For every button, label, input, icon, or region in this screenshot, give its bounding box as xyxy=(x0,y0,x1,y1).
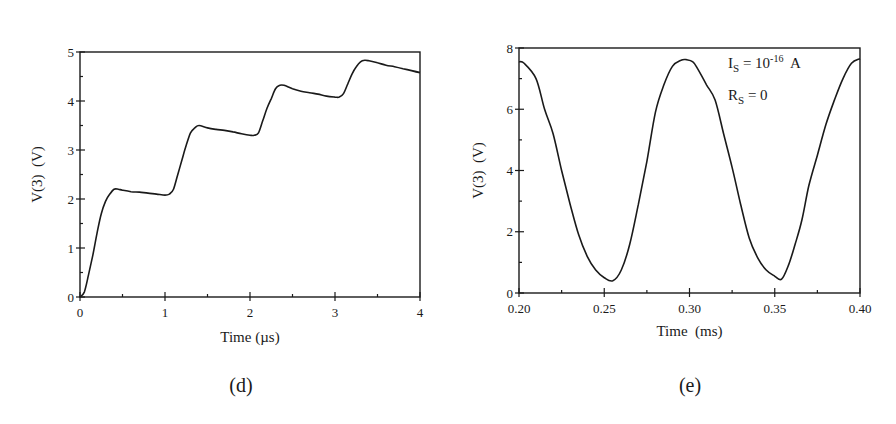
chart-e-y-ticks: 02468 xyxy=(507,41,525,301)
chart-e-series-line xyxy=(519,59,860,281)
chart-e-x-ticks: 0.200.250.300.350.40 xyxy=(508,288,872,316)
x-tick-label: 0.20 xyxy=(508,301,531,316)
chart-d-y-axis-title: V(3) (V) xyxy=(29,146,46,203)
x-tick-label: 1 xyxy=(162,305,169,320)
y-tick-label: 4 xyxy=(507,163,514,178)
y-tick-label: 6 xyxy=(507,102,514,117)
x-tick-label: 4 xyxy=(417,305,424,320)
y-tick-label: 5 xyxy=(68,45,75,60)
chart-d-plot-frame xyxy=(80,52,420,297)
y-tick-label: 0 xyxy=(68,290,75,305)
chart-d-series-line xyxy=(80,60,420,297)
chart-e-x-axis-title: Time (ms) xyxy=(656,323,722,340)
chart-e-annotation-saturation-current: IS = 10-16 A xyxy=(728,53,801,74)
x-tick-label: 2 xyxy=(247,305,254,320)
figure: 012345 01234 Time (µs) V(3) (V) (d) 0246… xyxy=(0,0,896,424)
chart-d-x-ticks: 01234 xyxy=(77,292,424,320)
x-tick-label: 0.40 xyxy=(849,301,872,316)
x-tick-label: 3 xyxy=(332,305,339,320)
anno-rs-main: R xyxy=(728,87,738,103)
y-tick-label: 2 xyxy=(68,192,75,207)
anno-rs-eq: = 0 xyxy=(744,87,767,103)
y-tick-label: 0 xyxy=(507,286,514,301)
x-tick-label: 0 xyxy=(77,305,84,320)
y-tick-label: 2 xyxy=(507,224,514,239)
anno-is-eq: = 10 xyxy=(739,55,770,71)
x-tick-label: 0.35 xyxy=(763,301,786,316)
anno-is-sup: -16 xyxy=(770,53,783,64)
chart-e-y-axis-title: V(3) (V) xyxy=(470,142,487,199)
y-tick-label: 3 xyxy=(68,143,75,158)
anno-is-tail: A xyxy=(783,55,801,71)
chart-e-plot-frame xyxy=(519,48,860,293)
y-tick-label: 1 xyxy=(68,241,75,256)
y-tick-label: 8 xyxy=(507,41,514,56)
chart-d-y-ticks: 012345 xyxy=(68,45,86,305)
x-tick-label: 0.30 xyxy=(678,301,701,316)
chart-d-x-axis-title: Time (µs) xyxy=(220,329,279,346)
chart-e-annotation-series-resistance: RS = 0 xyxy=(728,87,768,106)
chart-e-voltage-oscillation: 02468 0.200.250.300.350.40 Time (ms) V(3… xyxy=(470,41,871,398)
y-tick-label: 4 xyxy=(68,94,75,109)
chart-d-panel-label: (d) xyxy=(229,374,252,397)
chart-e-panel-label: (e) xyxy=(679,374,701,397)
chart-d-voltage-step: 012345 01234 Time (µs) V(3) (V) (d) xyxy=(29,45,424,398)
x-tick-label: 0.25 xyxy=(593,301,616,316)
